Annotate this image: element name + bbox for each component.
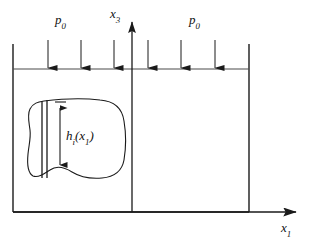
axis-label-x1-sub: 1 (287, 229, 291, 239)
coordinate-axes (13, 22, 296, 212)
pressure-label-right-sub: 0 (196, 21, 200, 31)
domain-boundary (13, 44, 249, 212)
diagram-canvas (0, 0, 309, 244)
axis-label-x3-base: x (110, 6, 116, 21)
pressure-loading-diagram: p0 p0 x3 x1 hi(x1) (0, 0, 309, 244)
height-label-arg-open: (x (75, 128, 85, 143)
axis-label-x3: x3 (110, 7, 120, 23)
axis-label-x1-base: x (281, 220, 287, 235)
axis-label-x3-sub: 3 (116, 15, 120, 25)
height-function-label: hi(x1) (66, 129, 94, 145)
pressure-label-left-base: p (55, 12, 62, 27)
axis-label-x1: x1 (281, 221, 291, 237)
pressure-label-right: p0 (189, 13, 200, 29)
pressure-label-left: p0 (55, 13, 66, 29)
height-label-arg-close: ) (89, 128, 93, 143)
height-label-base: h (66, 128, 73, 143)
height-label-sub: i (73, 137, 75, 147)
height-dimension (55, 102, 66, 165)
pressure-label-right-base: p (189, 12, 196, 27)
height-label-arg-sub: 1 (85, 137, 89, 147)
pressure-label-left-sub: 0 (62, 21, 66, 31)
